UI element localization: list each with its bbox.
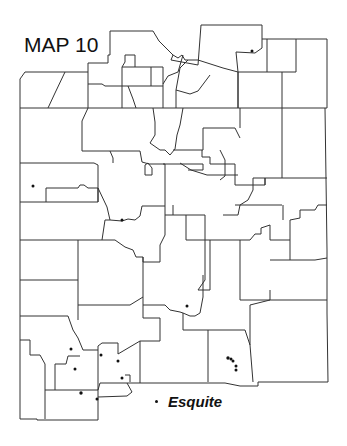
legend-label: Esquite bbox=[168, 393, 222, 410]
map-legend: Esquite bbox=[155, 393, 222, 410]
legend-dot-icon bbox=[155, 400, 158, 403]
county-map bbox=[0, 0, 347, 446]
occurrence-points bbox=[32, 50, 254, 401]
